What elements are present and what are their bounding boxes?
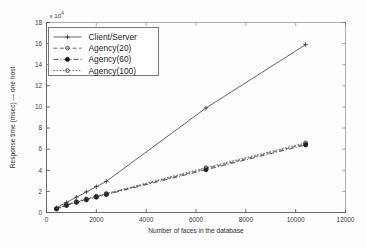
- y-tick-label: 6: [38, 145, 42, 152]
- y-tick-label: 2: [38, 188, 42, 195]
- y-tick-label: 18: [35, 19, 43, 26]
- x-tick-label: 0: [45, 216, 49, 223]
- series-agency-100: [55, 141, 308, 210]
- y-axis-label: Response time (msec) --- one host: [9, 67, 17, 169]
- legend-label: Agency(60): [89, 54, 132, 64]
- y-tick-label: 16: [35, 40, 43, 47]
- legend: Client/ServerAgency(20)Agency(60)Agency(…: [49, 28, 159, 76]
- x-tick-label: 12000: [337, 216, 355, 223]
- x-tick-label: 4000: [139, 216, 154, 223]
- y-tick-label: 8: [38, 124, 42, 131]
- x-tick-label: 8000: [239, 216, 254, 223]
- legend-label: Client/Server: [89, 32, 138, 42]
- chart-svg: 0200040006000800010000120000246810121416…: [0, 0, 366, 248]
- legend-label: Agency(100): [89, 66, 137, 76]
- y-tick-label: 12: [35, 82, 43, 89]
- y-tick-label: 10: [35, 103, 43, 110]
- y-axis-multiplier: x 104: [50, 11, 65, 19]
- series-line: [56, 143, 305, 209]
- x-axis-label: Number of faces in the database: [148, 227, 244, 234]
- series-line: [56, 144, 305, 209]
- x-tick-label: 6000: [189, 216, 204, 223]
- x-tick-label: 2000: [89, 216, 104, 223]
- legend-label: Agency(20): [89, 43, 132, 53]
- figure-canvas: 0200040006000800010000120000246810121416…: [0, 0, 366, 248]
- y-tick-label: 14: [35, 61, 43, 68]
- data-marker: [65, 57, 69, 61]
- y-tick-label: 0: [38, 209, 42, 216]
- y-tick-label: 4: [38, 167, 42, 174]
- series-line: [56, 145, 305, 209]
- series-agency-20: [55, 142, 308, 211]
- x-tick-label: 10000: [287, 216, 305, 223]
